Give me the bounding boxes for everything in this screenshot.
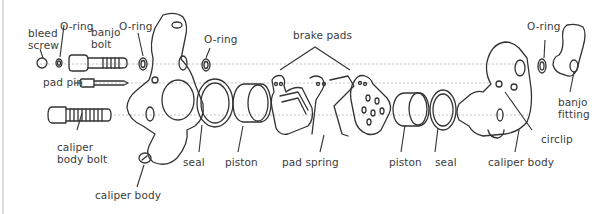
label-seal-left: seal [183,157,205,168]
oring-1-part [56,59,62,67]
label-bleed-screw-line1: bleed [28,28,58,39]
brake-pad-right-part [351,76,391,135]
label-caliper-body-left: caliper body [95,190,161,201]
diagram-canvas: bleed screw O-ring banjo bolt O-ring pad… [0,0,615,214]
oring-4-part [538,59,546,73]
banjo-bolt-part [69,55,127,71]
label-pad-spring: pad spring [282,157,339,168]
caliper-body-right-part [457,42,532,138]
piston-left-part [233,84,271,122]
brake-pad-left-part [271,76,312,135]
label-brake-pads: brake pads [293,30,352,41]
label-circlip: circlip [541,134,573,145]
label-banjo-bolt-line2: bolt [91,39,112,50]
label-oring-1: O-ring [60,21,94,32]
banjo-fitting-part [553,24,585,76]
label-banjo-fitting-line2: fitting [558,109,590,120]
label-oring-3: O-ring [204,34,238,45]
label-oring-2: O-ring [119,21,153,32]
oring-3-part [202,59,210,71]
label-oring-4: O-ring [527,21,561,32]
label-seal-right: seal [435,157,457,168]
label-bleed-screw-line2: screw [28,40,59,51]
label-pad-pin: pad pin [43,77,83,88]
label-caliper-body-right: caliper body [488,157,554,168]
label-piston-left: piston [225,157,258,168]
seal-right-part [430,90,456,130]
pad-spring-part [310,76,354,136]
label-piston-right: piston [389,157,422,168]
label-banjo-bolt-line1: banjo [91,27,121,38]
bleed-screw-part [37,58,47,68]
label-banjo-fitting-line1: banjo [558,97,588,108]
label-caliper-body-bolt-line2: body bolt [57,154,107,165]
piston-right-part [393,93,429,126]
label-caliper-body-bolt-line1: caliper [57,142,93,153]
